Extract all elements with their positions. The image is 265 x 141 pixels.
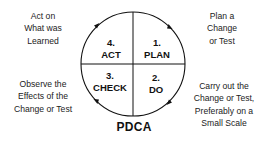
quadrant-label: DO [138, 84, 174, 96]
quadrant-number: 1. [136, 37, 178, 49]
quadrant-do: 2. DO [138, 72, 174, 96]
bottom-right-clockwise-arrow-icon [167, 100, 173, 106]
quadrant-plan: 1. PLAN [136, 37, 178, 61]
quadrant-label: ACT [92, 49, 130, 61]
quadrant-check: 3. CHECK [88, 70, 132, 94]
quadrant-act: 4. ACT [92, 37, 130, 61]
quadrant-label: PLAN [136, 49, 178, 61]
quadrant-number: 3. [88, 70, 132, 82]
diagram-title: PDCA [112, 120, 156, 134]
quadrant-label: CHECK [88, 82, 132, 94]
quadrant-number: 2. [138, 72, 174, 84]
top-left-clockwise-arrow-icon [94, 23, 100, 29]
quadrant-number: 4. [92, 37, 130, 49]
